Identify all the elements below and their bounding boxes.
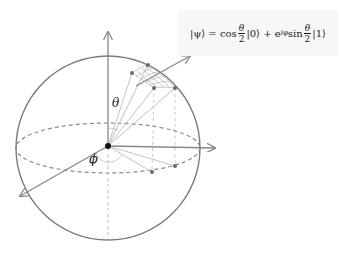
fraction-numerator-b: θ [304,23,311,34]
phi-label: ϕ [89,151,98,166]
formula-sin: sin [288,28,303,39]
formula-exponent: iφ [281,29,288,37]
formula-ket1: |1⟩ [312,28,326,39]
sphere-center-point [105,143,111,149]
formula-ket0-e: |0⟩ + e [246,28,280,39]
fraction-theta-over-2-b: θ 2 [304,23,312,44]
fraction-numerator: θ [238,23,245,34]
y-axis-arrow [108,146,215,148]
state-formula: |ψ⟩ = cos θ 2 |0⟩ + e iφ sin θ 2 |1⟩ [178,10,338,56]
phi-arc [96,153,122,162]
fraction-denominator: 2 [238,34,246,44]
formula-psi-cos: |ψ⟩ = cos [190,28,237,39]
fraction-theta-over-2: θ 2 [238,23,246,44]
theta-label: θ [112,96,119,110]
projection-lines [152,88,175,172]
state-vector-lines [108,65,175,172]
fraction-denominator-b: 2 [304,34,312,44]
